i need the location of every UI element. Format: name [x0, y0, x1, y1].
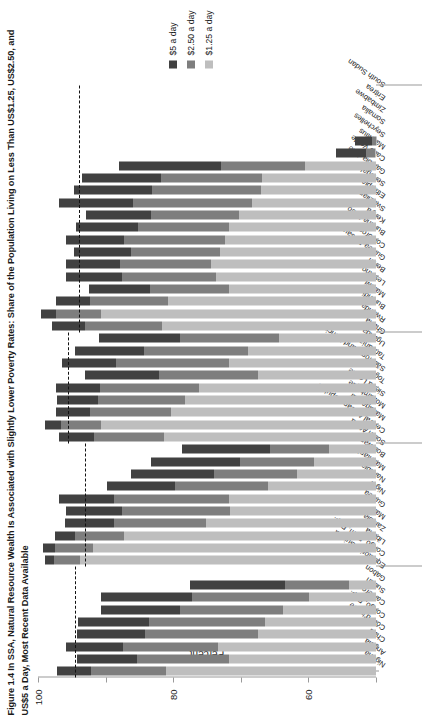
bar-segment [230, 506, 376, 515]
bar-column[interactable]: Chad [38, 642, 376, 651]
bar-column[interactable]: Nigeria [38, 666, 376, 675]
bar-segment [57, 395, 98, 404]
bar-column[interactable]: Botswana [38, 457, 376, 466]
bar-segment [56, 296, 90, 305]
bar-column[interactable]: Senegal [38, 185, 376, 194]
bar-segment [89, 284, 150, 293]
bar-column[interactable]: Namibia [38, 481, 376, 490]
legend-swatch-icon [169, 60, 177, 68]
category-axis-tick [376, 325, 379, 326]
category-axis-tick [376, 608, 379, 609]
bar-column[interactable]: Lesotho [38, 284, 376, 293]
bar-column[interactable]: Congo, Rep. [38, 617, 376, 626]
bar-column[interactable]: Swaziland [38, 210, 376, 219]
bar-segment [162, 321, 376, 330]
legend-item[interactable]: $1.25 a day [204, 10, 214, 68]
bar-segment [182, 444, 270, 453]
category-axis-tick [376, 238, 379, 239]
bar-segment [166, 666, 376, 675]
category-axis-tick [376, 584, 379, 585]
bar-segment [144, 346, 247, 355]
bar-column[interactable]: Sudan [38, 592, 376, 601]
bar-segment [150, 284, 229, 293]
bar-column[interactable]: Ethiopia [38, 198, 376, 207]
bar-segment [99, 333, 180, 342]
bar-column[interactable]: South Sudan [38, 87, 376, 96]
bar-segment [54, 555, 79, 564]
bar-segment [297, 469, 376, 478]
bar-segment [252, 198, 376, 207]
legend: $5 a day$2.50 a day$1.25 a day [168, 10, 214, 68]
category-axis-tick [376, 645, 379, 646]
bar-column[interactable]: Niger [38, 494, 376, 503]
bar-column[interactable]: Tanzania [38, 358, 376, 367]
plot-area: Percent 020406080100 NigeriaAngolaChadCô… [38, 85, 376, 677]
bar-segment [220, 247, 376, 256]
bar-column[interactable]: Mozambique [38, 407, 376, 416]
bar-column[interactable]: Somalia [38, 124, 376, 133]
bar-segment [214, 469, 297, 478]
legend-item[interactable]: $2.50 a day [186, 10, 196, 68]
bar-column[interactable]: Zimbabwe [38, 111, 376, 120]
bar-segment [74, 247, 131, 256]
legend-item[interactable]: $5 a day [168, 10, 178, 68]
bar-column[interactable]: Rwanda [38, 321, 376, 330]
category-axis-tick [376, 522, 379, 523]
bar-column[interactable]: Zambia [38, 531, 376, 540]
bar-column[interactable]: Gabon [38, 580, 376, 589]
bar-segment [66, 506, 122, 515]
bar-column[interactable]: Eritrea [38, 99, 376, 108]
bar-column[interactable]: São Tomé and Príncipe [38, 370, 376, 379]
value-axis-tick-label: 60 [303, 689, 314, 700]
bar-segment [65, 518, 114, 527]
category-axis-tick [376, 251, 379, 252]
bar-column[interactable]: Mauritius [38, 148, 376, 157]
bar-column[interactable]: Guinea-Bissau [38, 259, 376, 268]
bar-column[interactable]: Gambia, The [38, 173, 376, 182]
bar-column[interactable]: Sierra Leone [38, 395, 376, 404]
bar-column[interactable]: Madagascar [38, 420, 376, 429]
bar-column[interactable]: Burundi [38, 309, 376, 318]
category-axis-tick [376, 436, 379, 437]
category-axis-tick [376, 621, 379, 622]
group-separator [376, 331, 422, 332]
bar-segment [329, 444, 376, 453]
category-axis-tick [376, 497, 379, 498]
category-axis-tick [376, 399, 379, 400]
bar-segment [101, 605, 180, 614]
group-separator [376, 565, 422, 566]
bar-column[interactable]: Benin [38, 272, 376, 281]
bar-column[interactable]: Liberia [38, 543, 376, 552]
bar-column[interactable]: Comoros [38, 247, 376, 256]
bar-segment [114, 518, 205, 527]
bar-column[interactable]: Kenya [38, 222, 376, 231]
category-axis-tick [376, 312, 379, 313]
bar-column[interactable]: Guinea [38, 506, 376, 515]
bar-segment [309, 592, 376, 601]
bar-segment [218, 642, 376, 651]
bar-column[interactable]: Angola [38, 654, 376, 663]
bar-segment [122, 272, 217, 281]
bar-column[interactable]: Cameroon [38, 605, 376, 614]
bar-column[interactable]: South Africa [38, 444, 376, 453]
bar-segment [131, 469, 214, 478]
category-axis-tick [376, 226, 379, 227]
bar-column[interactable]: Cabo Verde [38, 161, 376, 170]
bar-column[interactable]: Togo [38, 383, 376, 392]
bar-column[interactable]: Equatorial Guinea [38, 568, 376, 577]
bar-column[interactable]: Seychelles [38, 136, 376, 145]
bar-column[interactable]: Burkina Faso [38, 235, 376, 244]
bar-column[interactable]: Congo, Dem. Rep. [38, 555, 376, 564]
bar-segment [93, 543, 376, 552]
bar-column[interactable]: Malawi [38, 296, 376, 305]
bar-column[interactable]: Ghana [38, 333, 376, 342]
bar-segment [98, 395, 185, 404]
bar-column[interactable]: Mauritania [38, 469, 376, 478]
bar-column[interactable]: Côte d'Ivoire [38, 629, 376, 638]
bar-segment [55, 543, 93, 552]
category-axis-tick [376, 473, 379, 474]
legend-swatch-icon [187, 60, 195, 68]
bar-column[interactable]: Central African Republic [38, 432, 376, 441]
bar-column[interactable]: Mali [38, 518, 376, 527]
bar-column[interactable]: Uganda [38, 346, 376, 355]
